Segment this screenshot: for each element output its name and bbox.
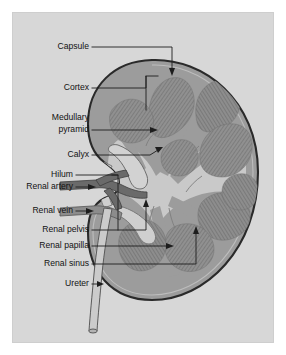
label-calyx: Calyx xyxy=(68,149,90,159)
label-renal-vein: Renal vein xyxy=(32,205,73,215)
label-ureter: Ureter xyxy=(65,278,89,288)
medullary-pyramid xyxy=(109,99,153,143)
label-renal-sinus: Renal sinus xyxy=(44,258,89,268)
label-cortex: Cortex xyxy=(64,82,90,92)
label-capsule: Capsule xyxy=(57,41,89,51)
label-hilum: Hilum xyxy=(51,169,73,179)
kidney-anatomy-figure: Capsule Cortex Medullary pyramid Calyx H… xyxy=(0,0,286,355)
label-renal-artery: Renal artery xyxy=(26,181,74,191)
label-renal-papilla: Renal papilla xyxy=(39,240,89,250)
label-medullary-pyramid-line1: Medullary xyxy=(52,112,90,122)
label-renal-pelvis: Renal pelvis xyxy=(42,224,89,234)
ureter-cut-end xyxy=(89,329,97,333)
label-medullary-pyramid-line2: pyramid xyxy=(58,124,89,134)
medullary-pyramid xyxy=(222,174,258,210)
